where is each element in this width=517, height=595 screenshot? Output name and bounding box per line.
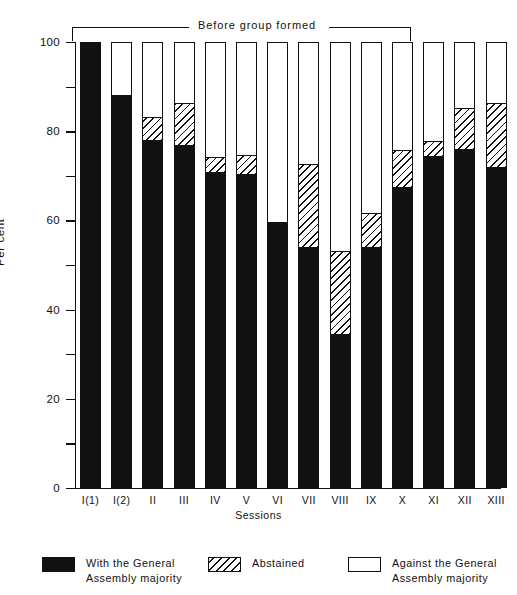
y-tick-major (66, 131, 75, 132)
y-tick-minor (66, 176, 75, 177)
bar-segment-abstained (299, 164, 318, 249)
bar-segment-abstained (362, 213, 381, 249)
open-white-swatch (348, 557, 381, 572)
y-tick-label: 40 (30, 304, 60, 316)
bar-segment-with-majority (175, 146, 194, 487)
bar-segment-with-majority (299, 248, 318, 487)
plot-area (76, 42, 500, 488)
y-tick-major (66, 399, 75, 400)
legend-label-line1: With the General (86, 556, 182, 571)
bar-segment-with-majority (112, 95, 131, 487)
legend-item-abstained: Abstained (208, 556, 305, 572)
bar-segment-with-majority (237, 175, 256, 487)
y-tick-minor (66, 265, 75, 266)
bar-segment-abstained (143, 117, 162, 142)
bar-segment-with-majority (424, 157, 443, 487)
y-tick-label: 80 (30, 125, 60, 137)
x-tick-label-XIII: XIII (474, 494, 517, 506)
y-tick-label: 60 (30, 214, 60, 226)
y-tick-minor (66, 443, 75, 444)
legend-label-with-majority: With the General Assembly majority (86, 556, 182, 585)
bar-XII (454, 42, 475, 488)
bar-IX (361, 42, 382, 488)
solid-black-swatch (42, 557, 75, 572)
y-tick-label: 0 (30, 482, 60, 494)
bar-segment-with-majority (487, 168, 506, 487)
bar-XIII (486, 42, 507, 488)
bar-V (236, 42, 257, 488)
y-tick-major (66, 42, 75, 43)
bar-segment-abstained (237, 155, 256, 175)
bar-segment-with-majority (268, 222, 287, 487)
bar-segment-abstained (455, 108, 474, 150)
bar-segment-abstained (331, 251, 350, 336)
hatched-swatch (208, 557, 241, 572)
bar-III (174, 42, 195, 488)
bar-segment-abstained (393, 150, 412, 188)
bar-segment-abstained (175, 103, 194, 145)
bar-segment-abstained (487, 103, 506, 168)
bar-segment-with-majority (331, 335, 350, 487)
legend-label-line1: Against the General (392, 556, 497, 571)
bar-segment-with-majority (362, 248, 381, 487)
bar-segment-with-majority (393, 188, 412, 487)
legend-label-line1: Abstained (252, 556, 305, 571)
y-axis-title: Per cent (0, 218, 6, 266)
bar-VIII (330, 42, 351, 488)
bar-segment-with-majority (455, 150, 474, 487)
chart-legend: With the General Assembly majority Absta… (0, 548, 517, 590)
y-tick-major (66, 488, 75, 489)
before-group-formed-label: Before group formed (194, 19, 320, 31)
bar-segment-with-majority (81, 42, 100, 487)
bar-I2 (111, 42, 132, 488)
bar-segment-abstained (206, 157, 225, 173)
bar-segment-abstained (424, 141, 443, 157)
legend-label-line2: Assembly majority (392, 571, 497, 586)
y-tick-major (66, 310, 75, 311)
bar-X (392, 42, 413, 488)
legend-item-with-majority: With the General Assembly majority (42, 556, 182, 585)
legend-item-against-majority: Against the General Assembly majority (348, 556, 497, 585)
bar-I1 (80, 42, 101, 488)
bar-chart: Before group formed Per cent 02040608010… (0, 0, 517, 595)
y-tick-minor (66, 354, 75, 355)
legend-label-against-majority: Against the General Assembly majority (392, 556, 497, 585)
legend-label-line2: Assembly majority (86, 571, 182, 586)
bar-VI (267, 42, 288, 488)
y-tick-minor (66, 87, 75, 88)
bar-IV (205, 42, 226, 488)
y-tick-label: 100 (30, 36, 60, 48)
y-tick-major (66, 220, 75, 221)
bar-II (142, 42, 163, 488)
legend-label-abstained: Abstained (252, 556, 305, 571)
y-tick-label: 20 (30, 393, 60, 405)
bar-XI (423, 42, 444, 488)
x-axis-title: Sessions (0, 509, 517, 521)
bar-VII (298, 42, 319, 488)
bar-segment-with-majority (206, 173, 225, 487)
bar-segment-with-majority (143, 141, 162, 487)
